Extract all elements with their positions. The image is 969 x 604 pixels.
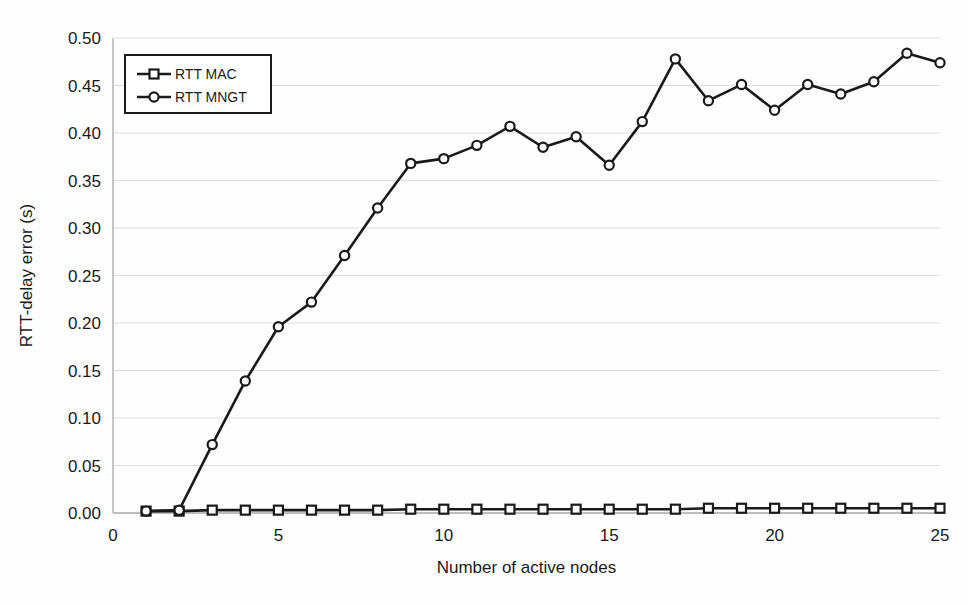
chart-figure: 0.000.050.100.150.200.250.300.350.400.45… [0, 0, 969, 604]
data-point-marker [704, 96, 713, 105]
chart-legend: RTT MACRTT MNGT [125, 55, 271, 113]
data-point-marker [241, 506, 250, 515]
legend-entry-rtt-mngt[interactable]: RTT MNGT [137, 89, 247, 105]
y-tick-label: 0.10 [68, 409, 101, 428]
data-point-marker [208, 440, 217, 449]
data-point-marker [539, 505, 548, 514]
data-point-marker [505, 505, 514, 514]
x-tick-label: 15 [600, 526, 619, 545]
data-point-marker [902, 504, 911, 513]
data-point-marker [406, 159, 415, 168]
y-tick-label: 0.45 [68, 77, 101, 96]
legend-label: RTT MNGT [175, 89, 247, 105]
data-point-marker [935, 58, 944, 67]
data-point-marker [406, 505, 415, 514]
data-point-marker [340, 251, 349, 260]
data-point-marker [737, 504, 746, 513]
data-point-marker [439, 505, 448, 514]
data-point-marker [373, 203, 382, 212]
y-axis-tick-labels: 0.000.050.100.150.200.250.300.350.400.45… [68, 29, 101, 523]
x-tick-label: 5 [274, 526, 283, 545]
y-tick-label: 0.20 [68, 314, 101, 333]
y-axis-title: RTT-delay error (s) [17, 204, 36, 347]
data-point-marker [836, 504, 845, 513]
data-point-marker [340, 506, 349, 515]
data-point-marker [803, 80, 812, 89]
y-tick-label: 0.05 [68, 457, 101, 476]
data-point-marker [274, 322, 283, 331]
data-point-marker [472, 141, 481, 150]
y-tick-label: 0.35 [68, 172, 101, 191]
y-tick-label: 0.25 [68, 267, 101, 286]
data-point-marker [538, 143, 547, 152]
y-tick-label: 0.30 [68, 219, 101, 238]
data-point-marker [572, 132, 581, 141]
x-axis-tick-labels: 0510152025 [108, 526, 949, 545]
data-point-marker [208, 506, 217, 515]
legend-label: RTT MAC [175, 66, 237, 82]
data-point-marker [141, 507, 150, 516]
x-tick-label: 0 [108, 526, 117, 545]
data-point-marker [936, 504, 945, 513]
data-point-marker [671, 505, 680, 514]
data-point-marker [836, 89, 845, 98]
data-point-marker [274, 506, 283, 515]
data-point-marker [770, 106, 779, 115]
data-point-marker [241, 376, 250, 385]
data-point-marker [572, 505, 581, 514]
legend-entry-rtt-mac[interactable]: RTT MAC [137, 66, 237, 82]
data-point-marker [902, 49, 911, 58]
data-point-marker [439, 154, 448, 163]
data-point-marker [307, 506, 316, 515]
data-point-marker [472, 505, 481, 514]
data-point-marker [803, 504, 812, 513]
x-axis-title: Number of active nodes [437, 558, 617, 577]
data-point-marker [638, 117, 647, 126]
data-point-marker [373, 506, 382, 515]
x-tick-label: 20 [765, 526, 784, 545]
x-tick-label: 25 [931, 526, 950, 545]
legend-circle-marker-icon [149, 92, 158, 101]
data-point-marker [307, 298, 316, 307]
data-point-marker [605, 505, 614, 514]
data-point-marker [737, 80, 746, 89]
y-tick-label: 0.40 [68, 124, 101, 143]
data-point-marker [869, 77, 878, 86]
data-point-marker [770, 504, 779, 513]
data-point-marker [638, 505, 647, 514]
x-tick-label: 10 [434, 526, 453, 545]
y-tick-label: 0.50 [68, 29, 101, 48]
legend-square-marker-icon [150, 70, 159, 79]
data-point-marker [704, 504, 713, 513]
data-point-marker [175, 506, 184, 515]
y-tick-label: 0.15 [68, 362, 101, 381]
data-point-marker [869, 504, 878, 513]
rtt-delay-error-line-chart: 0.000.050.100.150.200.250.300.350.400.45… [0, 0, 969, 604]
data-point-marker [671, 54, 680, 63]
y-tick-label: 0.00 [68, 504, 101, 523]
data-point-marker [505, 122, 514, 131]
data-point-marker [605, 161, 614, 170]
